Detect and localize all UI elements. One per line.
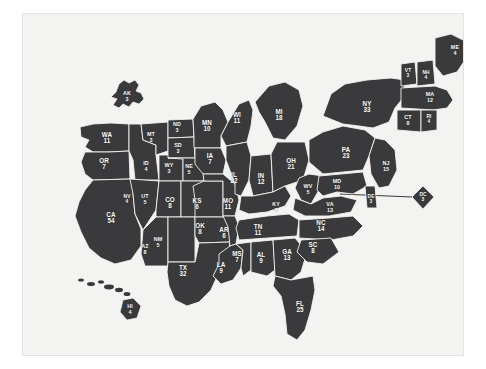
state-shape-CA xyxy=(75,179,141,264)
state-shape-ME xyxy=(435,34,464,76)
state-shape-WA xyxy=(80,123,129,152)
state-shape-NC xyxy=(299,216,363,240)
state-shape-NJ xyxy=(369,138,397,188)
state-shape-SD xyxy=(168,137,195,158)
state-shape-AL xyxy=(251,240,275,276)
state-shape-MN xyxy=(193,102,228,148)
state-shape-NM xyxy=(168,217,195,262)
state-shape-AK xyxy=(111,80,144,108)
state-shape-TN xyxy=(236,214,299,240)
state-shape-MI xyxy=(255,82,303,140)
state-shape-IN xyxy=(249,154,273,196)
us-map-svg xyxy=(23,14,464,356)
state-shape-ND xyxy=(168,119,194,138)
state-shape-OR xyxy=(81,151,130,180)
state-shape-MD xyxy=(317,172,367,196)
state-shape-VT xyxy=(401,62,417,86)
state-shape-PA xyxy=(309,126,375,174)
electoral-college-map-figure: AK3WA11OR7MT3ID4WY3ND3SD3NE5MN10WI11MI18… xyxy=(22,13,464,356)
state-shape-HI xyxy=(78,278,141,320)
state-shape-NH xyxy=(417,60,435,86)
state-shape-KS xyxy=(193,181,223,217)
state-shape-DE xyxy=(365,186,377,208)
state-shape-MA xyxy=(401,86,453,110)
map-land-group xyxy=(75,34,464,340)
state-shape-CT xyxy=(397,110,421,132)
state-shape-RI xyxy=(421,110,437,132)
state-shape-FL xyxy=(273,276,315,340)
state-shape-DC xyxy=(412,186,434,209)
state-shape-UT xyxy=(156,181,181,217)
state-shape-NY xyxy=(323,78,405,128)
state-shape-IA xyxy=(195,148,226,174)
